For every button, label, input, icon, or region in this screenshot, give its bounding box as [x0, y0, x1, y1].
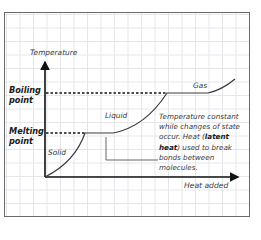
- phase-label-solid: Solid: [48, 148, 66, 158]
- annotation-pointer-line: [106, 137, 158, 160]
- phase-label-gas: Gas: [193, 81, 207, 91]
- x-axis-label: Heat added: [184, 181, 228, 191]
- melting-point-label-line2: point: [9, 136, 33, 146]
- latent-heat-annotation: Temperature constant while changes of st…: [159, 112, 251, 173]
- melting-point-label-line1: Melting: [9, 126, 44, 136]
- y-axis-label: Temperature: [30, 48, 77, 58]
- boiling-point-label-line2: point: [9, 95, 33, 105]
- phase-label-liquid: Liquid: [105, 111, 127, 121]
- boiling-point-label-line1: Boiling: [9, 85, 41, 95]
